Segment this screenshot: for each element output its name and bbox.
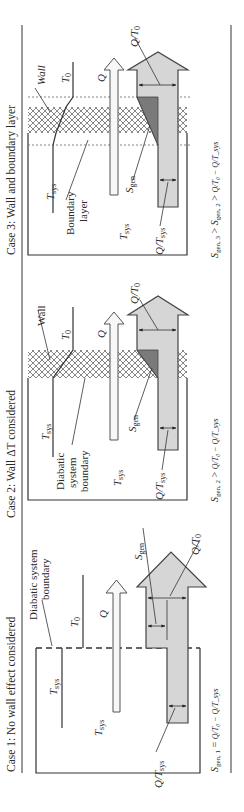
entropy-generation-figure: Case 3: Wall and boundary layer Wall T0 … <box>0 0 244 812</box>
case2-temperature-profile <box>53 307 73 457</box>
case2-q-t0-label: Q/T0 <box>128 283 142 304</box>
case3-panel: Case 3: Wall and boundary layer Wall T0 … <box>5 26 222 258</box>
case1-q-tsys-label: Q/Tsys <box>152 761 166 788</box>
case1-panel: Case 1: No wall effect considered Diabat… <box>5 528 222 788</box>
case1-entropy-arrow <box>137 552 206 723</box>
case1-q-label: Q <box>97 610 109 618</box>
case2-boundary-label-3: boundary <box>78 450 90 492</box>
case2-panel: Case 2: Wall ΔT considered Wall T0 Tsys … <box>5 283 222 518</box>
case1-formula: Sgen, 1 = Q/T₀ − Q/T_sys <box>209 688 222 772</box>
case3-boundary-layer-label-2: layer <box>77 200 89 222</box>
case1-tsys-line-label: Tsys <box>47 679 61 695</box>
case1-boundary-label-2: boundary <box>39 558 51 600</box>
case2-q-label: Q <box>95 330 107 338</box>
case3-q-tsys-label: Q/Tsys <box>153 228 167 255</box>
case1-sgen-label: Sgen <box>132 543 146 560</box>
case2-t0-label: T0 <box>59 330 73 340</box>
case1-title: Case 1: No wall effect considered <box>5 616 17 772</box>
case1-boundary-label-1: Diabatic system <box>27 549 39 620</box>
case3-wall-label: Wall <box>35 65 47 85</box>
case3-title: Case 3: Wall and boundary layer <box>5 105 18 255</box>
case1-t0-label: T0 <box>68 617 82 627</box>
case2-boundary-label-1: Diabatic <box>54 453 66 490</box>
case2-boundary-leader <box>72 378 85 445</box>
case3-t0-label: T0 <box>59 73 73 83</box>
case2-title: Case 2: Wall ΔT considered <box>5 390 17 518</box>
case2-sgen-label: Sgen <box>126 415 140 432</box>
case3-sgen-leader <box>133 125 150 180</box>
case3-tsys-region-label: Tsys <box>117 224 131 240</box>
case1-heat-arrow <box>106 580 127 712</box>
case2-wall-label: Wall <box>35 306 47 327</box>
case2-boundary-label-2: system <box>66 457 78 488</box>
case3-formula: Sgen, 3 > Sgen, 2 > Q/T₀ − Q/T_sys <box>209 142 222 258</box>
case1-q-t0-label: Q/T0 <box>189 534 203 555</box>
case2-formula: Sgen, 2 > Q/T₀ − Q/T_sys <box>209 418 222 502</box>
case2-tsys-region-label: Tsys <box>111 470 125 486</box>
case2-q-tsys-label: Q/Tsys <box>153 473 167 500</box>
case3-sgen-label: Sgen <box>123 176 137 193</box>
case1-q-tsys-leader <box>156 708 175 752</box>
case3-boundary-layer-label-1: Boundary <box>64 191 76 235</box>
case3-q-t0-label: Q/T0 <box>128 26 142 47</box>
case2-tsys-line-label: Tsys <box>39 424 53 440</box>
case1-boundary-leader <box>42 600 52 646</box>
case3-tsys-line-label: Tsys <box>44 184 58 200</box>
case3-boundary-layer-leader <box>66 140 88 200</box>
case3-q-label: Q <box>95 74 107 82</box>
case1-tsys-region-label: Tsys <box>92 720 106 736</box>
